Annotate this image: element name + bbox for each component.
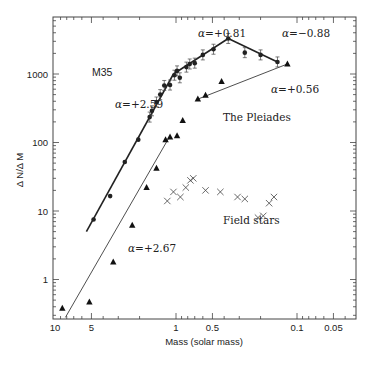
data-point-circle xyxy=(201,53,206,58)
data-point-triangle xyxy=(153,165,159,171)
x-tick-label: 0.05 xyxy=(324,322,343,333)
annotation: α=+0.56 xyxy=(271,83,319,95)
annotation: α=+2.59 xyxy=(115,98,163,110)
y-tick-label: 100 xyxy=(32,137,48,148)
data-point-circle xyxy=(91,217,96,222)
y-tick-labels: 1101001000 xyxy=(27,69,48,286)
data-point-triangle xyxy=(59,305,65,311)
data-point-triangle xyxy=(129,222,135,228)
series-m35 xyxy=(91,33,280,221)
data-point-x xyxy=(266,200,272,206)
annotation: α=+0.81 xyxy=(198,27,246,39)
annotation: Field stars xyxy=(223,214,280,226)
data-point-triangle xyxy=(86,298,92,304)
x-tick-label: 0.1 xyxy=(290,322,303,333)
annotation: M35 xyxy=(92,66,113,78)
data-point-circle xyxy=(275,60,280,65)
data-point-x xyxy=(271,194,277,200)
data-point-circle xyxy=(211,47,216,52)
data-point-circle xyxy=(243,50,248,55)
data-point-circle xyxy=(162,83,167,88)
data-point-circle xyxy=(136,137,141,142)
y-tick-label: 10 xyxy=(37,206,48,217)
data-point-triangle xyxy=(202,92,208,98)
annotation: The Pleiades xyxy=(223,111,291,123)
data-point-triangle xyxy=(174,132,180,138)
data-point-triangle xyxy=(110,259,116,265)
x-axis-title: Mass (solar mass) xyxy=(165,336,243,347)
data-point-circle xyxy=(258,53,263,58)
plot-frame xyxy=(53,17,356,319)
y-tick-label: 1 xyxy=(43,274,48,285)
data-point-circle xyxy=(168,83,173,88)
data-point-triangle xyxy=(180,117,186,123)
y-axis-title: Δ N/Δ M xyxy=(14,153,25,187)
data-point-x xyxy=(190,175,196,181)
data-point-circle xyxy=(147,115,152,120)
annotation: α=−0.88 xyxy=(282,27,330,39)
fit-line xyxy=(65,136,170,318)
series-the-pleiades xyxy=(59,60,291,310)
x-tick-label: 1 xyxy=(173,322,178,333)
data-point-circle xyxy=(108,194,113,199)
data-point-x xyxy=(164,198,170,204)
data-point-circle xyxy=(178,76,183,81)
data-point-circle xyxy=(172,73,177,78)
fit-line xyxy=(228,38,277,61)
data-point-circle xyxy=(158,92,163,97)
x-minor-ticks xyxy=(61,17,346,319)
mass-function-chart: 10510.50.10.05 1101001000 Mass (solar ma… xyxy=(0,0,375,367)
x-tick-label: 10 xyxy=(50,322,61,333)
y-tick-label: 1000 xyxy=(27,69,48,80)
data-point-x xyxy=(234,194,240,200)
y-minor-ticks xyxy=(53,21,356,316)
fit-line xyxy=(173,38,228,74)
data-point-triangle xyxy=(167,134,173,140)
annotation: α=+2.67 xyxy=(128,242,176,254)
data-point-x xyxy=(242,196,248,202)
x-tick-labels: 10510.50.10.05 xyxy=(50,322,343,333)
data-point-triangle xyxy=(284,60,290,66)
data-point-circle xyxy=(192,61,197,66)
data-point-x xyxy=(217,189,223,195)
annotation-layer: M35α=+2.59α=+0.81α=−0.88α=+0.56The Pleia… xyxy=(92,27,330,254)
data-point-triangle xyxy=(218,78,224,84)
data-point-circle xyxy=(122,160,127,165)
data-point-x xyxy=(170,189,176,195)
data-point-circle xyxy=(187,62,192,67)
data-point-x xyxy=(177,194,183,200)
data-point-triangle xyxy=(143,184,149,190)
x-tick-label: 0.5 xyxy=(206,322,219,333)
data-point-x xyxy=(183,184,189,190)
data-point-x xyxy=(202,187,208,193)
x-tick-label: 5 xyxy=(89,322,94,333)
